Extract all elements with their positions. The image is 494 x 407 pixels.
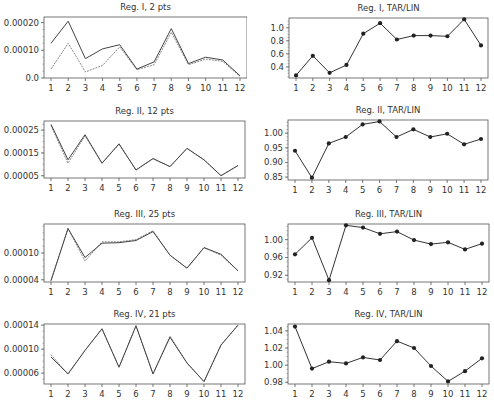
- data-point-marker: [428, 135, 432, 139]
- x-tick-label: 2: [309, 185, 314, 195]
- x-tick-label: 2: [310, 83, 315, 93]
- x-tick-label: 4: [343, 185, 348, 195]
- x-tick-label: 5: [360, 287, 365, 297]
- data-point-marker: [344, 223, 348, 227]
- x-tick-label: 9: [184, 183, 189, 193]
- line-chart: Reg. I, 2 pts0.00.000100.000201234567891…: [0, 0, 247, 101]
- y-tick-label: 0.6: [270, 49, 284, 59]
- y-tick-label: 1.0: [270, 23, 284, 33]
- x-tick-label: 5: [360, 389, 365, 399]
- x-tick-label: 6: [377, 389, 382, 399]
- x-tick-label: 9: [186, 83, 191, 93]
- x-tick-label: 7: [394, 83, 399, 93]
- x-tick-label: 4: [343, 389, 348, 399]
- data-point-marker: [377, 119, 381, 123]
- y-tick-label: 0.00010: [4, 45, 39, 55]
- x-tick-label: 8: [167, 389, 172, 399]
- x-tick-label: 5: [117, 83, 122, 93]
- x-tick-label: 2: [65, 83, 70, 93]
- x-tick-label: 5: [116, 389, 121, 399]
- data-point-marker: [445, 34, 449, 38]
- data-point-marker: [429, 242, 433, 246]
- y-tick-label: 0.00010: [4, 248, 39, 258]
- data-point-marker: [344, 135, 348, 139]
- data-point-marker: [327, 141, 331, 145]
- x-tick-label: 6: [377, 185, 382, 195]
- x-tick-label: 5: [361, 83, 366, 93]
- line-chart: Reg. III, TAR/LIN0.920.961.0012345678910…: [247, 200, 494, 301]
- x-tick-label: 11: [459, 185, 470, 195]
- x-tick-label: 1: [48, 389, 53, 399]
- data-point-marker: [428, 34, 432, 38]
- data-point-marker: [378, 358, 382, 362]
- chart-title: Reg. I, 2 pts: [120, 2, 171, 12]
- x-tick-label: 8: [411, 389, 416, 399]
- line-chart: Reg. I, TAR/LIN0.40.60.81.01234567891011…: [247, 0, 494, 101]
- data-point-marker: [310, 366, 314, 370]
- x-tick-label: 4: [100, 83, 105, 93]
- y-tick-label: 1.00: [264, 235, 283, 245]
- data-point-marker: [293, 252, 297, 256]
- x-tick-label: 11: [217, 83, 228, 93]
- x-tick-label: 2: [65, 183, 70, 193]
- panel-reg-ii-pts: Reg. II, 12 pts0.000050.000150.000251234…: [0, 100, 247, 201]
- x-tick-label: 3: [326, 389, 331, 399]
- panel-reg-iv-pts: Reg. IV, 21 pts0.000060.000100.000141234…: [0, 305, 247, 406]
- data-point-marker: [395, 339, 399, 343]
- y-tick-label: 1.04: [264, 326, 283, 336]
- data-point-marker: [361, 122, 365, 126]
- series-line: [295, 327, 482, 382]
- x-tick-label: 11: [216, 183, 227, 193]
- data-point-marker: [327, 278, 331, 282]
- data-point-marker: [479, 43, 483, 47]
- x-tick-label: 8: [411, 185, 416, 195]
- x-tick-label: 12: [233, 389, 244, 399]
- x-tick-label: 12: [476, 185, 487, 195]
- data-point-marker: [378, 232, 382, 236]
- x-tick-label: 4: [344, 83, 349, 93]
- x-tick-label: 4: [99, 287, 104, 297]
- x-tick-label: 3: [82, 287, 87, 297]
- plot-frame: [44, 224, 245, 282]
- data-point-marker: [310, 176, 314, 180]
- data-point-marker: [479, 137, 483, 141]
- y-tick-label: 0.98: [264, 377, 283, 387]
- x-tick-label: 8: [411, 83, 416, 93]
- x-tick-label: 10: [200, 83, 211, 93]
- series-line: [51, 32, 240, 76]
- series-line: [51, 229, 238, 281]
- x-tick-label: 2: [309, 287, 314, 297]
- x-tick-label: 10: [442, 83, 453, 93]
- x-tick-label: 5: [116, 287, 121, 297]
- x-tick-label: 9: [428, 287, 433, 297]
- data-point-marker: [395, 229, 399, 233]
- x-tick-label: 7: [394, 287, 399, 297]
- x-tick-label: 10: [199, 183, 210, 193]
- y-tick-label: 1.02: [264, 343, 283, 353]
- y-tick-label: 0.00025: [4, 125, 39, 135]
- x-tick-label: 9: [428, 83, 433, 93]
- x-tick-label: 9: [428, 185, 433, 195]
- line-chart: Reg. IV, TAR/LIN0.981.001.021.0412345678…: [247, 305, 494, 406]
- x-tick-label: 2: [309, 389, 314, 399]
- x-tick-label: 9: [184, 389, 189, 399]
- series-line: [295, 122, 481, 178]
- data-point-marker: [293, 324, 297, 328]
- x-tick-label: 12: [477, 287, 488, 297]
- data-point-marker: [394, 135, 398, 139]
- x-tick-label: 3: [82, 183, 87, 193]
- x-tick-label: 1: [48, 83, 53, 93]
- chart-title: Reg. III, TAR/LIN: [355, 209, 422, 219]
- x-tick-label: 3: [327, 83, 332, 93]
- data-point-marker: [462, 17, 466, 21]
- x-tick-label: 10: [442, 185, 453, 195]
- x-tick-label: 8: [169, 83, 174, 93]
- x-tick-label: 4: [343, 287, 348, 297]
- data-point-marker: [311, 54, 315, 58]
- x-tick-label: 9: [184, 287, 189, 297]
- x-tick-label: 6: [377, 287, 382, 297]
- panel-reg-i-tar-lin: Reg. I, TAR/LIN0.40.60.81.01234567891011…: [247, 0, 494, 101]
- x-tick-label: 9: [428, 389, 433, 399]
- x-tick-label: 11: [459, 83, 470, 93]
- x-tick-label: 7: [150, 183, 155, 193]
